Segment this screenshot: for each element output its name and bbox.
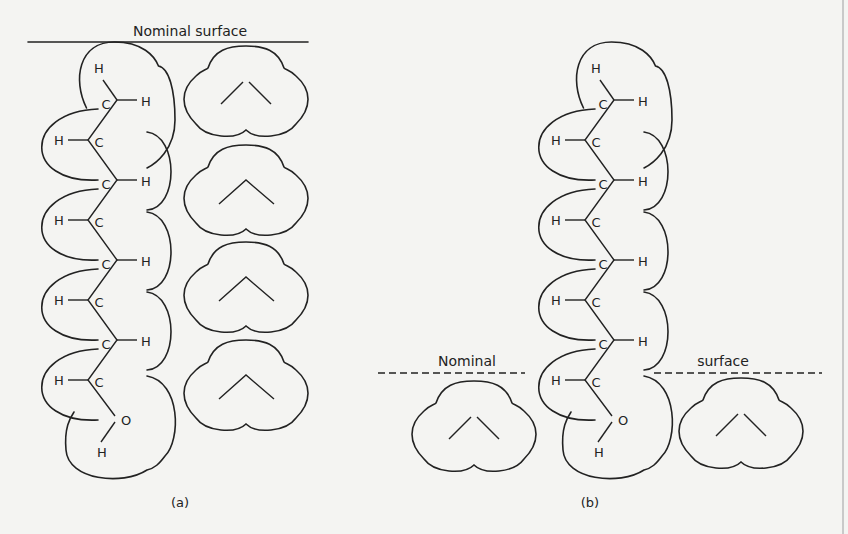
hydrogen-atom: H: [141, 94, 151, 109]
carbon-atom: C: [598, 177, 607, 192]
alcohol-chain-b: CHCHCHCHCHCHCHCHHOH: [539, 42, 673, 479]
hydrogen-atom: H: [141, 254, 151, 269]
hydrogen-atom: H: [551, 133, 561, 148]
hydrogen-atom: H: [141, 334, 151, 349]
ch2-cloud-outline: [644, 292, 668, 370]
water-molecule: [184, 340, 308, 430]
panel-b: Nominal surface CHCHCHCHCHCHCHCHHOH (b): [378, 42, 822, 510]
ch2-cloud-outline: [147, 132, 171, 210]
water-bond-chevron: [219, 180, 274, 204]
o-h-bond: [101, 422, 115, 442]
ch2-cloud-outline: [42, 189, 98, 260]
hydrogen-atom: H: [638, 174, 648, 189]
o-h-bond: [744, 414, 766, 436]
ch2-cloud-outline: [539, 109, 595, 180]
hydrogen-atom: H: [638, 334, 648, 349]
water-cloud-outline: [679, 378, 803, 468]
water-molecule: [184, 242, 308, 332]
water-molecule: [679, 378, 803, 468]
ch2-cloud-outline: [147, 212, 171, 290]
oxygen-atom: O: [121, 413, 131, 428]
panel-a: Nominal surface CHCHCHCHCHCHCHCHHOH (a): [28, 23, 308, 510]
nominal-surface-label: Nominal surface: [133, 23, 247, 39]
oxygen-atom: O: [618, 413, 628, 428]
hydrogen-atom: H: [638, 94, 648, 109]
o-h-bond: [221, 82, 243, 104]
hydrogen-atom: H: [54, 293, 64, 308]
water-column-a: [184, 46, 308, 430]
carbon-atom: C: [101, 97, 110, 112]
alcohol-chain-a: CHCHCHCHCHCHCHCHHOH: [42, 42, 176, 479]
water-cloud-outline: [184, 46, 308, 136]
hydrogen-atom: H: [551, 213, 561, 228]
water-cloud-outline: [412, 381, 536, 471]
surface-label: surface: [697, 353, 749, 369]
water-molecule: [184, 145, 308, 235]
carbon-atom: C: [94, 375, 103, 390]
hydrogen-atom: H: [97, 445, 107, 460]
water-molecule: [412, 381, 536, 471]
ch2-cloud-outline: [644, 212, 668, 290]
carbon-atom: C: [591, 135, 600, 150]
o-h-bond: [477, 417, 499, 439]
water-cloud-outline: [184, 145, 308, 235]
ch2-cloud-outline: [539, 349, 595, 420]
carbon-atom: C: [101, 177, 110, 192]
caption-b: (b): [581, 495, 599, 510]
ch2-cloud-outline: [147, 292, 171, 370]
carbon-atom: C: [591, 375, 600, 390]
carbon-atom: C: [94, 295, 103, 310]
carbon-atom: C: [591, 215, 600, 230]
ch2-cloud-outline: [42, 269, 98, 340]
carbon-atom: C: [598, 337, 607, 352]
water-bond-chevron: [219, 375, 274, 399]
o-h-bond: [598, 422, 612, 442]
hydrogen-atom: H: [591, 61, 601, 76]
carbon-atom: C: [101, 337, 110, 352]
ch2-cloud-outline: [539, 189, 595, 260]
hydrogen-atom: H: [638, 254, 648, 269]
figure-canvas: Nominal surface CHCHCHCHCHCHCHCHHOH (a) …: [0, 0, 848, 534]
water-bond-chevron: [219, 277, 274, 301]
water-cloud-outline: [184, 340, 308, 430]
hydrogen-atom: H: [141, 174, 151, 189]
ch2-cloud-outline: [42, 349, 98, 420]
hydrogen-atom: H: [94, 61, 104, 76]
hydrogen-atom: H: [551, 293, 561, 308]
nominal-label: Nominal: [438, 353, 496, 369]
o-h-bond: [249, 82, 271, 104]
caption-a: (a): [171, 495, 189, 510]
hydrogen-atom: H: [54, 133, 64, 148]
ch2-cloud-outline: [42, 109, 98, 180]
carbon-atom: C: [598, 257, 607, 272]
water-pair-b: [412, 378, 803, 471]
carbon-atom: C: [101, 257, 110, 272]
carbon-atom: C: [598, 97, 607, 112]
carbon-atom: C: [591, 295, 600, 310]
hydrogen-atom: H: [54, 213, 64, 228]
water-molecule: [184, 46, 308, 136]
water-cloud-outline: [184, 242, 308, 332]
carbon-atom: C: [94, 135, 103, 150]
o-h-bond: [716, 414, 738, 436]
carbon-atom: C: [94, 215, 103, 230]
hydrogen-atom: H: [54, 373, 64, 388]
hydrogen-atom: H: [551, 373, 561, 388]
hydrogen-atom: H: [594, 445, 604, 460]
ch2-cloud-outline: [539, 269, 595, 340]
o-h-bond: [449, 417, 471, 439]
ch2-cloud-outline: [644, 132, 668, 210]
